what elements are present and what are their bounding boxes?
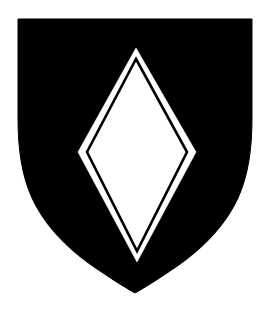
heraldic-shield-image: Sable, a lozenge voided argent <box>0 0 260 315</box>
shield-canvas <box>0 0 260 315</box>
